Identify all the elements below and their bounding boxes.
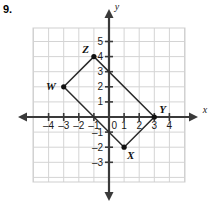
vertex-dot-z	[91, 54, 96, 59]
y-axis-label: y	[114, 1, 120, 12]
x-tick-label: –2	[73, 120, 85, 131]
vertex-dot-y	[152, 114, 157, 119]
axes	[18, 9, 198, 201]
x-tick-label: 4	[167, 120, 173, 131]
y-tick-label: 1	[97, 96, 103, 107]
vertex-label-x: X	[126, 149, 135, 161]
x-tick-label: 3	[152, 120, 158, 131]
axis-names: xy	[114, 1, 208, 115]
y-tick-label: 2	[97, 81, 103, 92]
x-tick-label-origin: 0	[112, 120, 118, 131]
coordinate-plane-figure: –4–3–2–101234–3–2–112345 xy WZYX	[0, 0, 216, 202]
vertex-label-w: W	[46, 80, 57, 92]
y-tick-label: –3	[92, 157, 104, 168]
y-axis-arrow-up	[105, 9, 114, 18]
vertex-label-y: Y	[159, 103, 167, 115]
vertex-dot-w	[61, 84, 66, 89]
x-tick-label: 1	[121, 120, 127, 131]
y-tick-label: –1	[92, 127, 104, 138]
x-axis-arrow-left	[18, 113, 27, 122]
y-tick-label: 5	[97, 36, 103, 47]
graph-svg: –4–3–2–101234–3–2–112345 xy WZYX	[0, 0, 216, 202]
y-tick-label: –2	[92, 142, 104, 153]
x-tick-label: –4	[43, 120, 55, 131]
x-tick-label: –3	[58, 120, 70, 131]
x-axis-label: x	[202, 104, 208, 115]
vertex-dot-x	[122, 145, 127, 150]
y-tick-label: 3	[97, 66, 103, 77]
vertex-label-z: Z	[81, 43, 89, 55]
x-axis-arrow-right	[189, 113, 198, 122]
y-axis-arrow-down	[105, 192, 114, 201]
